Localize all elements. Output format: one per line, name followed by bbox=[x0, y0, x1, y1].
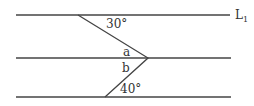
angle-label-30: 30° bbox=[106, 17, 127, 31]
angle-label-a: a bbox=[123, 45, 130, 59]
line-label-sub: 1 bbox=[243, 15, 248, 24]
line-label-l1: L1 bbox=[235, 8, 248, 24]
line-label-main: L bbox=[235, 8, 243, 22]
parallel-lines-diagram: 30° a b 40° L1 bbox=[0, 0, 254, 106]
angle-label-b: b bbox=[122, 61, 130, 75]
angle-label-40: 40° bbox=[120, 82, 141, 96]
